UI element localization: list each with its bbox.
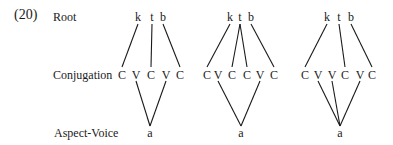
autosegmental-diagram: (20) Root Conjugation Aspect-Voice ktbCV… — [0, 0, 393, 145]
melody-association-line — [332, 81, 340, 126]
root-consonant: k — [324, 11, 330, 23]
melody-association-line — [318, 81, 340, 126]
root-consonant: t — [238, 11, 241, 23]
tier-label-aspect-voice: Aspect-Voice — [54, 127, 118, 139]
skeleton-slot: C — [341, 69, 349, 81]
skeleton-slot: V — [214, 69, 223, 81]
melody-association-line — [340, 81, 360, 126]
root-association-line — [163, 24, 180, 67]
skeleton-slot: C — [368, 69, 376, 81]
root-association-line — [240, 24, 247, 67]
skeleton-slot: C — [176, 69, 184, 81]
tier-label-root: Root — [53, 11, 76, 23]
melody-vowel: a — [238, 127, 243, 139]
root-consonant: k — [227, 11, 233, 23]
root-association-line — [339, 24, 345, 67]
root-association-line — [151, 24, 152, 67]
skeleton-slot: C — [270, 69, 278, 81]
root-association-line — [251, 24, 274, 67]
melody-vowel: a — [147, 127, 152, 139]
root-consonant: k — [135, 11, 141, 23]
skeleton-slot: C — [301, 69, 309, 81]
root-consonant: b — [248, 11, 254, 23]
melody-association-line — [218, 81, 241, 126]
root-association-line — [305, 24, 327, 67]
skeleton-slot: V — [132, 69, 141, 81]
melody-association-line — [150, 81, 166, 126]
root-association-line — [351, 24, 372, 67]
skeleton-slot: C — [147, 69, 155, 81]
skeleton-slot: V — [314, 69, 323, 81]
melody-vowel: a — [337, 127, 342, 139]
skeleton-slot: C — [243, 69, 251, 81]
skeleton-slot: V — [256, 69, 265, 81]
root-association-line — [232, 24, 240, 67]
root-association-line — [207, 24, 230, 67]
root-consonant: b — [160, 11, 166, 23]
skeleton-slot: C — [118, 69, 126, 81]
skeleton-slot: V — [356, 69, 365, 81]
example-number: (20) — [14, 8, 37, 22]
root-association-line — [122, 24, 138, 67]
root-consonant: t — [337, 11, 340, 23]
skeleton-slot: C — [203, 69, 211, 81]
skeleton-slot: V — [162, 69, 171, 81]
melody-association-line — [136, 81, 150, 126]
skeleton-slot: C — [228, 69, 236, 81]
tier-label-conjugation: Conjugation — [53, 69, 112, 81]
root-consonant: t — [150, 11, 153, 23]
melody-association-line — [241, 81, 260, 126]
root-consonant: b — [348, 11, 354, 23]
skeleton-slot: V — [328, 69, 337, 81]
